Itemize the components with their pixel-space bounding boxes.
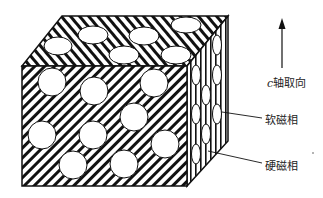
speck <box>312 152 314 154</box>
front-face <box>22 66 187 186</box>
c-axis-text: 轴取向 <box>273 77 306 90</box>
hard-phase-leader <box>208 151 262 163</box>
c-axis-label: c轴取向 <box>267 74 306 90</box>
hard-phase-label: 硬磁相 <box>265 157 298 173</box>
c-axis-arrow-icon <box>279 18 286 68</box>
soft-phase-label: 软磁相 <box>265 111 298 127</box>
